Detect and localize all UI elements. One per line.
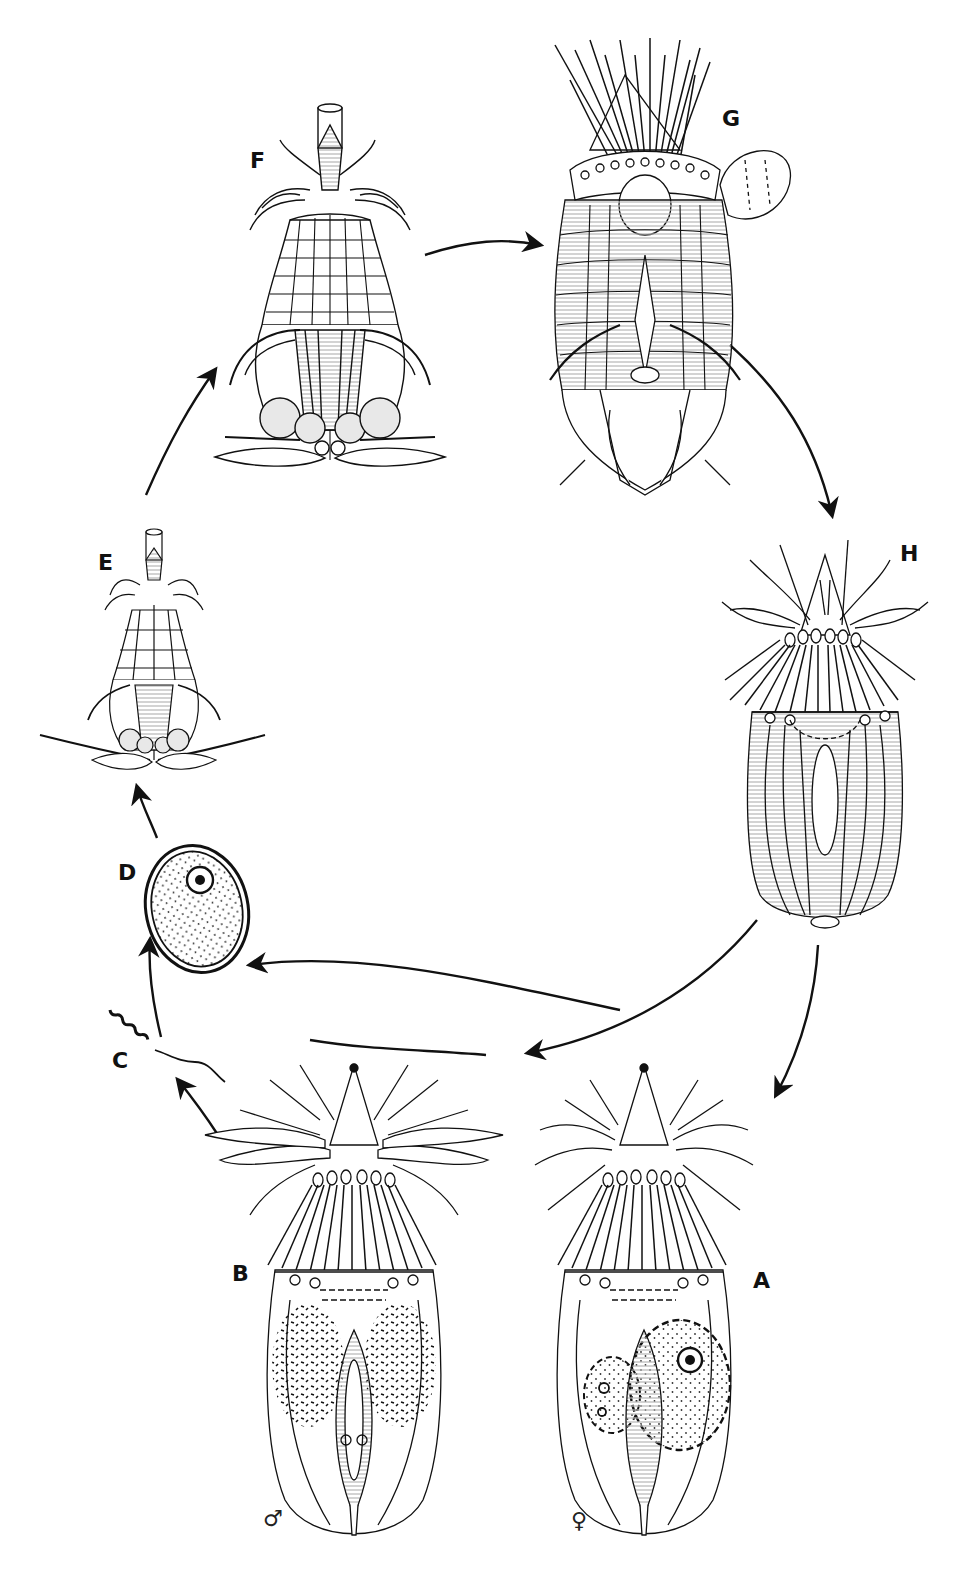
arrow-h-to-d	[250, 961, 620, 1010]
stage-label-b: B	[232, 1263, 249, 1285]
arrow-b-to-c	[178, 1080, 218, 1135]
stage-label-e: E	[98, 552, 113, 574]
arrow-h-to-a	[776, 945, 818, 1095]
stage-label-g: G	[722, 108, 740, 130]
stage-label-a: A	[753, 1270, 770, 1292]
arrow-g-to-h	[730, 345, 832, 515]
arrow-e-to-f	[146, 370, 215, 495]
life-cycle-diagram	[0, 0, 973, 1571]
arrow-h-to-b	[528, 920, 757, 1053]
stage-b-male-adult	[205, 1064, 503, 1535]
arrow-b-to-c-line	[310, 1040, 486, 1055]
female-symbol-icon: ♀	[571, 1510, 587, 1532]
stage-h-juvenile	[722, 540, 928, 928]
stage-a-female-adult	[535, 1064, 753, 1535]
stage-e-larva	[40, 529, 265, 769]
arrow-f-to-g	[425, 241, 540, 255]
male-symbol-icon: ♂	[263, 1508, 283, 1530]
stage-label-c: C	[112, 1050, 128, 1072]
stage-d-egg	[134, 836, 260, 982]
stage-label-f: F	[250, 150, 265, 172]
stage-g-postlarva	[550, 38, 790, 495]
stage-label-h: H	[900, 543, 918, 565]
arrow-d-to-e	[137, 787, 157, 838]
stage-label-d: D	[118, 862, 136, 884]
arrow-c-to-d	[149, 940, 161, 1037]
